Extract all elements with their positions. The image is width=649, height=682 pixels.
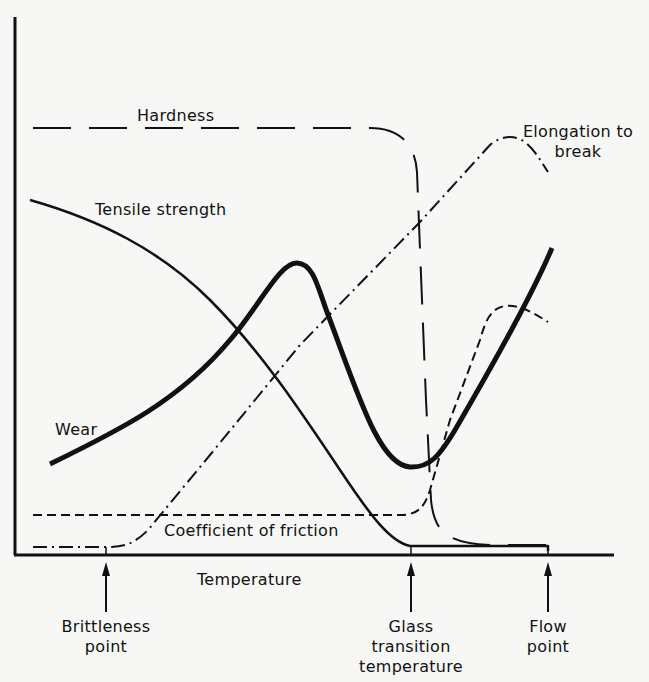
hardness-curve	[33, 128, 546, 545]
elongation-curve	[33, 137, 548, 547]
elongation-label-line1: Elongation to	[508, 122, 648, 142]
glass-transition-label: Glass transition temperature	[351, 617, 471, 677]
flow-label-line1: Flow	[508, 617, 588, 637]
glass-label-line1: Glass	[351, 617, 471, 637]
flow-point-arrow-icon	[544, 562, 552, 612]
friction-label: Coefficient of friction	[164, 521, 339, 541]
brittleness-label-line1: Brittleness	[46, 617, 166, 637]
elongation-label-line2: break	[508, 142, 648, 162]
brittleness-label-line2: point	[46, 637, 166, 657]
tensile-strength-label: Tensile strength	[95, 200, 226, 220]
tensile-strength-curve	[30, 200, 548, 551]
flow-point-label: Flow point	[508, 617, 588, 657]
wear-label: Wear	[55, 420, 97, 440]
wear-curve	[50, 248, 552, 467]
friction-curve	[33, 306, 548, 515]
brittleness-arrow-icon	[102, 562, 110, 612]
elongation-label: Elongation to break	[508, 122, 648, 162]
property-temperature-diagram	[0, 0, 649, 682]
glass-label-line3: temperature	[351, 657, 471, 677]
x-axis-label: Temperature	[197, 570, 302, 590]
glass-label-line2: transition	[351, 637, 471, 657]
brittleness-point-label: Brittleness point	[46, 617, 166, 657]
flow-label-line2: point	[508, 637, 588, 657]
glass-transition-arrow-icon	[407, 562, 415, 612]
hardness-label: Hardness	[137, 106, 214, 126]
